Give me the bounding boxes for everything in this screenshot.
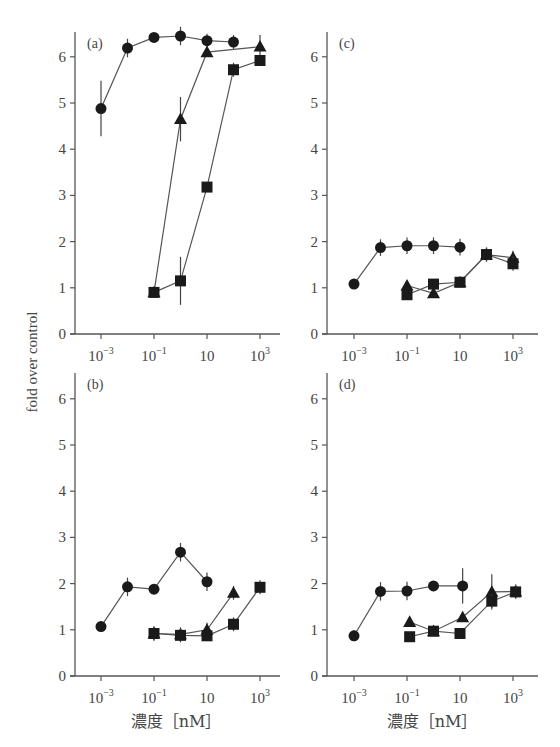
y-tick-label: 4 [311,483,319,499]
y-tick-label: 1 [59,622,67,638]
data-point-circle [202,35,213,46]
panel-label: (b) [87,377,104,393]
x-tick-label: 103 [250,687,270,706]
data-point-circle [375,586,386,597]
y-tick-label: 6 [59,49,67,65]
series-square [402,248,519,301]
x-tick-label: 10−1 [394,687,420,706]
data-point-square [508,258,519,269]
series-line [154,593,234,635]
y-tick-label: 5 [311,437,319,453]
y-tick-label: 4 [59,141,67,157]
panel-label: (d) [339,377,356,393]
data-point-circle [122,581,133,592]
series-line [101,36,234,109]
data-point-square [404,631,415,642]
series-triangle [148,586,241,641]
data-point-circle [96,621,107,632]
data-point-triangle [403,615,416,627]
y-tick-label: 2 [311,576,319,592]
y-tick-label: 6 [311,391,319,407]
data-point-circle [228,37,239,48]
x-tick-label: 103 [503,687,523,706]
panel-c: 012345610−310−110103(c) [311,32,539,364]
data-point-triangle [227,586,240,598]
x-axis-label-right: 濃度［nM］ [387,712,478,731]
panel-b: 012345610−310−110103(b) [59,373,281,706]
y-tick-label: 0 [311,326,319,342]
y-tick-label: 2 [59,234,67,250]
data-point-circle [122,43,133,54]
data-point-square [255,582,266,593]
series-circle [96,27,240,136]
y-tick-label: 0 [311,668,319,684]
y-tick-label: 6 [311,49,319,65]
data-point-circle [375,242,386,253]
y-tick-label: 5 [311,95,319,111]
data-point-square [202,182,213,193]
x-tick-label: 10−3 [88,687,114,706]
data-point-triangle [401,279,414,291]
x-tick-label: 10−1 [141,345,167,364]
panel-a: 012345610−310−110103(a) [59,27,281,364]
data-point-triangle [456,611,469,623]
data-point-circle [402,585,413,596]
y-tick-label: 3 [59,187,67,203]
data-point-square [149,287,160,298]
y-tick-label: 0 [59,326,67,342]
y-axis-label: fold over control [24,312,40,413]
panel-label: (a) [87,36,103,52]
y-tick-label: 2 [59,576,67,592]
series-square [149,55,266,305]
data-point-circle [455,242,466,253]
data-point-circle [428,580,439,591]
x-tick-label: 10 [453,348,468,364]
data-point-square [455,277,466,288]
data-point-circle [457,580,468,591]
figure: 012345610−310−110103(a)012345610−310−110… [0,0,560,747]
x-tick-label: 10−3 [341,345,367,364]
y-tick-label: 4 [311,141,319,157]
data-point-circle [202,576,213,587]
series-line [154,60,260,292]
x-tick-label: 10−1 [394,345,420,364]
data-point-square [486,596,497,607]
data-point-square [175,275,186,286]
y-tick-label: 3 [311,529,319,545]
data-point-circle [349,630,360,641]
series-triangle [148,35,267,297]
series-line [407,255,513,295]
y-tick-label: 2 [311,234,319,250]
data-point-circle [402,240,413,251]
series-circle [96,543,213,632]
data-point-circle [428,240,439,251]
data-point-circle [96,103,107,114]
y-tick-label: 3 [59,529,67,545]
data-point-circle [175,31,186,42]
y-tick-label: 3 [311,187,319,203]
data-point-square [481,249,492,260]
data-point-square [402,289,413,300]
data-point-circle [175,547,186,558]
y-tick-label: 6 [59,391,67,407]
y-tick-label: 1 [59,280,67,296]
x-tick-label: 10−1 [141,687,167,706]
panel-label: (c) [339,36,355,52]
data-point-square [149,628,160,639]
data-point-circle [149,32,160,43]
data-point-square [428,279,439,290]
data-point-triangle [254,40,267,52]
y-tick-label: 0 [59,668,67,684]
y-tick-label: 1 [311,622,319,638]
series-circle [349,568,469,641]
data-point-square [510,586,521,597]
x-tick-label: 10 [200,348,215,364]
y-tick-label: 5 [59,95,67,111]
x-axis-label-left: 濃度［nM］ [131,712,222,731]
x-tick-label: 103 [503,345,523,364]
x-tick-label: 10−3 [341,687,367,706]
y-tick-label: 4 [59,483,67,499]
data-point-circle [149,584,160,595]
series-line [154,47,260,293]
data-point-square [428,626,439,637]
